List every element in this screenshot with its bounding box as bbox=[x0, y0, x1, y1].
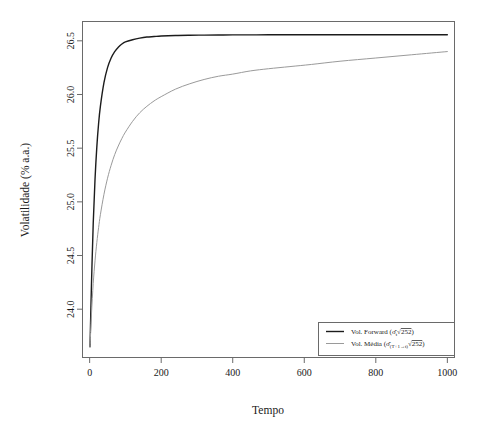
x-tick-label: 400 bbox=[225, 367, 240, 378]
y-axis-label: Volatilidade (% a.a.) bbox=[19, 143, 32, 237]
legend-name: Vol. Média bbox=[351, 340, 384, 348]
legend-name: Vol. Forward bbox=[351, 328, 390, 336]
x-axis-label: Tempo bbox=[252, 404, 284, 417]
legend-label-1: Vol. Forward (σ̂t√252) bbox=[351, 328, 414, 337]
chart-figure: 02004006008001000 24.024.525.025.526.026… bbox=[0, 0, 481, 445]
legend-subscript: (T+1→t) bbox=[390, 344, 408, 349]
y-tick-label: 24.5 bbox=[65, 247, 76, 265]
y-tick-label: 25.0 bbox=[65, 193, 76, 211]
legend-radicand: 252 bbox=[412, 340, 423, 348]
x-tick-label: 200 bbox=[154, 367, 169, 378]
legend-label-2: Vol. Média (σ̂(T+1→t)√252) bbox=[351, 340, 425, 349]
chart-background bbox=[0, 0, 481, 445]
legend: Vol. Forward (σ̂t√252)Vol. Média (σ̂(T+1… bbox=[319, 323, 455, 356]
legend-radicand: 252 bbox=[401, 328, 412, 336]
y-tick-label: 24.0 bbox=[65, 300, 76, 318]
x-tick-label: 1000 bbox=[437, 367, 457, 378]
y-tick-label: 26.0 bbox=[65, 86, 76, 104]
x-tick-label: 800 bbox=[368, 367, 383, 378]
x-tick-label: 0 bbox=[87, 367, 92, 378]
x-tick-label: 600 bbox=[297, 367, 312, 378]
y-tick-label: 26.5 bbox=[65, 32, 76, 50]
line-chart: 02004006008001000 24.024.525.025.526.026… bbox=[0, 0, 481, 445]
y-tick-label: 25.5 bbox=[65, 139, 76, 157]
